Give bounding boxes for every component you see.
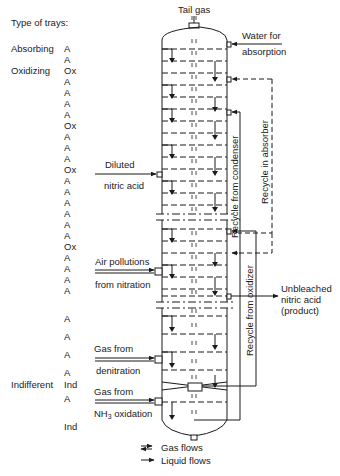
- air-pollutions-label-1: Air pollutions: [95, 256, 149, 267]
- tray-label: A: [64, 43, 70, 54]
- tray-label: Ox: [64, 65, 76, 76]
- tail-gas-label: Tail gas: [178, 4, 210, 15]
- diluted-acid-label-1: Diluted: [105, 159, 135, 170]
- tray-label: A: [64, 274, 70, 285]
- tray-label: A: [64, 87, 70, 98]
- liquid-flows-legend-label: Liquid flows: [161, 455, 211, 466]
- air-pollutions-label-2: from nitration: [95, 279, 150, 290]
- nh3-oxidation-gas-inlet: [95, 398, 162, 405]
- category-indifferent: Indifferent: [11, 379, 53, 390]
- tray-types-title: Type of trays:: [11, 17, 68, 28]
- tray-label: Ox: [64, 120, 76, 131]
- downcomers: [162, 49, 215, 418]
- tray-label: A: [64, 175, 70, 186]
- tray-label: A: [64, 98, 70, 109]
- bottom-nozzle: [191, 435, 197, 440]
- tray-label: A: [64, 219, 70, 230]
- tray-label: A: [64, 153, 70, 164]
- nitric-acid-absorption-column-diagram: Type of trays: Absorbing Oxidizing Indif…: [0, 0, 340, 476]
- recycle-in-absorber-label: Recycle in absorber: [259, 120, 270, 204]
- tray-label: A: [64, 331, 70, 342]
- denitration-label-1: Gas from: [94, 343, 133, 354]
- tray-label: Ox: [64, 164, 76, 175]
- diluted-acid-label-2: nitric acid: [104, 180, 144, 191]
- tray-label: A: [64, 109, 70, 120]
- product-label-2: nitric acid: [281, 294, 321, 305]
- tray-label: A: [64, 230, 70, 241]
- tray-label: A: [64, 142, 70, 153]
- tray-label: A: [64, 197, 70, 208]
- tray-label: Ox: [64, 241, 76, 252]
- gas-flow-indicators: [192, 16, 196, 414]
- denitration-label-2: denitration: [96, 365, 140, 376]
- tray-label: A: [64, 393, 70, 404]
- water-label-1: Water for: [242, 30, 281, 41]
- category-oxidizing: Oxidizing: [11, 65, 50, 76]
- tray-label: A: [64, 349, 70, 360]
- denitration-gas-inlet: [95, 356, 162, 363]
- water-label-2: absorption: [242, 46, 286, 57]
- category-absorbing: Absorbing: [11, 43, 54, 54]
- downcomer-arrows: [169, 58, 218, 420]
- collector-box: [188, 383, 202, 391]
- air-pollutions-inlet: [95, 268, 162, 275]
- gas-flows-legend-label: Gas flows: [161, 442, 203, 453]
- column-shell: [156, 16, 233, 436]
- gas-flows-legend-icon: [141, 446, 152, 449]
- tray-label: Ind: [64, 379, 77, 390]
- tray-label: A: [64, 285, 70, 296]
- tray-label: Ind: [64, 421, 77, 432]
- nh3-label-2: NH3 oxidation: [94, 408, 152, 422]
- tray-label: A: [64, 186, 70, 197]
- recycle-from-condenser-label: Recycle from condenser: [229, 136, 240, 238]
- diluted-acid-inlet: [95, 172, 162, 177]
- tray-label: A: [64, 252, 70, 263]
- tray-label: A: [64, 208, 70, 219]
- recycle-from-oxidizer-label: Recycle from oxidizer: [244, 265, 255, 356]
- tray-label: A: [64, 54, 70, 65]
- tray-label: A: [64, 76, 70, 87]
- column-drawing: [0, 0, 340, 476]
- tray-label: A: [64, 367, 70, 378]
- product-label-1: Unbleached: [281, 283, 332, 294]
- product-label-3: (product): [281, 305, 319, 316]
- trays: [162, 49, 227, 402]
- tray-label: A: [64, 313, 70, 324]
- nh3-label-1: Gas from: [94, 386, 133, 397]
- tray-label: A: [64, 131, 70, 142]
- tray-label: A: [64, 263, 70, 274]
